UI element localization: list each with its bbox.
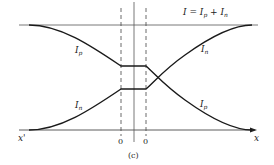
in-left-label: In [75,101,82,111]
ip-left-label: Ip [75,46,82,56]
ip-right-label: Ip [200,100,207,110]
x-label: x [254,134,259,143]
x-prime-label: x' [18,134,26,143]
total-current-label: I = Ip + In [183,8,228,18]
boundary-left-label: 0 [118,138,123,146]
boundary-right-label: 0 [143,138,148,146]
figure-caption: (c) [128,152,139,160]
ip-curve [29,25,252,130]
diagram-canvas [0,0,274,165]
in-right-label: In [201,45,208,55]
in-curve [29,25,252,130]
